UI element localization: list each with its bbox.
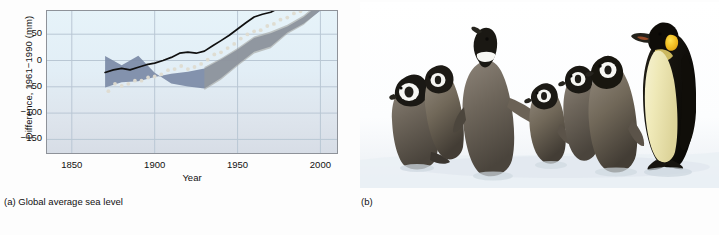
y-tickmark-neg150: [46, 139, 47, 140]
y-tickmark-neg100: [46, 113, 47, 114]
chart-uncertainty-band-outer: [204, 11, 328, 90]
figure-container: Difference, 1961−1990 (mm): [0, 0, 719, 235]
penguin-photo-svg: [360, 2, 719, 188]
chart-x-axis-label: Year: [46, 172, 338, 183]
y-tickmark-50: [46, 34, 47, 35]
emperor-penguin-photo: [360, 2, 719, 188]
panel-a-caption: (a) Global average sea level: [4, 196, 123, 207]
x-tick-label-1900: 1900: [144, 160, 165, 170]
x-tick-label-1950: 1950: [227, 160, 248, 170]
y-tick-label-0: 0: [37, 55, 42, 65]
chart-plot-area: [46, 10, 338, 154]
y-tick-label-neg150: −150: [21, 134, 42, 144]
panel-b-caption: (b): [361, 196, 373, 207]
chart-plot-wrapper: 50 0 −50 −100 −150 1850 1900 1950 2000: [46, 10, 338, 154]
y-tickmark-neg50: [46, 86, 47, 87]
y-tick-label-neg100: −100: [21, 107, 42, 117]
panel-a-chart: Difference, 1961−1990 (mm): [0, 0, 352, 235]
y-tickmark-0: [46, 60, 47, 61]
y-tick-label-50: 50: [31, 28, 42, 38]
chart-svg: [47, 11, 337, 153]
panel-b-photo: (b): [352, 0, 719, 235]
x-tick-label-2000: 2000: [310, 160, 331, 170]
x-tick-label-1850: 1850: [61, 160, 82, 170]
y-tick-label-neg50: −50: [26, 81, 42, 91]
